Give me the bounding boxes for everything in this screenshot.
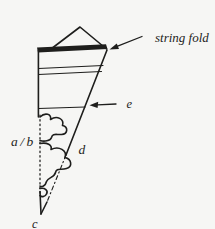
- crease-line-e: [39, 107, 86, 109]
- crease-line-2: [39, 72, 102, 75]
- string-fold-arrow: [110, 37, 143, 50]
- e-arrowhead: [90, 102, 99, 108]
- e-label: e: [127, 97, 133, 111]
- string-fold-label: string fold: [155, 30, 209, 45]
- string-fold-arrowhead: [110, 43, 120, 49]
- thick-top-bar: [37, 44, 108, 52]
- a-b-label: a/b: [11, 134, 36, 149]
- torn-blob-fill-2: [40, 143, 71, 186]
- d-label: d: [79, 142, 86, 157]
- string-fold-arrow-shaft: [117, 37, 142, 47]
- diagram-canvas: string fold e a/b d c: [0, 0, 215, 229]
- diagonal-edge-tip: [41, 202, 47, 214]
- left-edge-lower: [40, 192, 41, 215]
- crease-line-1: [39, 66, 104, 69]
- e-arrow: [90, 102, 117, 108]
- c-label: c: [32, 217, 38, 229]
- string-fold-diagram: string fold e a/b d c: [0, 0, 215, 229]
- e-arrow-shaft: [98, 104, 117, 105]
